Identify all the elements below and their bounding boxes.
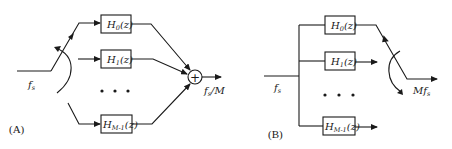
panel-b-interpolator-commutator: H0(z) H1(z) HM-1(z) fs Mfs (B)	[264, 16, 437, 141]
panel-b-output-rate-label: Mfs	[412, 85, 431, 98]
panel-a-decimator-commutator: H0(z) H1(z) HM-1(z) + fs fs/M (A)	[9, 15, 225, 136]
panel-b-filter-hm1: HM-1(z)	[323, 117, 360, 135]
panel-a-output-rate-label: fs/M	[203, 85, 225, 98]
panel-a-h1-output-arrow	[131, 59, 187, 74]
panel-a-hm1-output-arrow	[132, 84, 190, 124]
panel-a-input-rate-label: fs	[27, 79, 36, 92]
panel-b-filter-h0: H0(z)	[325, 16, 357, 34]
panel-a-summer: +	[188, 70, 202, 85]
panel-a-arm-arrowhead-icon	[68, 33, 74, 40]
panel-a-rotation-arrow-icon	[54, 46, 61, 52]
panel-a-hm1-input-arrow	[68, 103, 100, 124]
panel-a-filter-h0: H0(z)	[101, 15, 133, 33]
panel-b-commutator-arm	[355, 25, 437, 79]
panel-b-filter-h1: H1(z)	[325, 52, 357, 70]
panel-a-rotation-arc	[56, 48, 71, 93]
polyphase-filter-bank-diagram: H0(z) H1(z) HM-1(z) + fs fs/M (A)	[0, 0, 452, 149]
svg-text:+: +	[190, 71, 200, 85]
panel-b-ellipsis	[323, 93, 354, 96]
panel-b-input-rate-label: fs	[273, 82, 282, 95]
panel-a-h0-output-arrow	[131, 24, 190, 70]
panel-a-ellipsis	[100, 89, 129, 92]
panel-b-label: (B)	[268, 128, 283, 141]
panel-a-label: (A)	[9, 123, 25, 136]
panel-a-filter-h1: H1(z)	[101, 50, 133, 68]
